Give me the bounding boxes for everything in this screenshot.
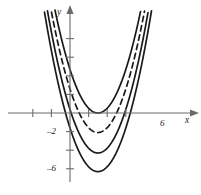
curve-parabola-1: [55, 10, 141, 113]
axis-group: [8, 5, 199, 182]
y-axis-arrowhead: [66, 5, 73, 14]
y-tick-label-minus6: –6: [47, 164, 56, 173]
y-axis-label: y: [57, 8, 61, 18]
x-axis-label: x: [185, 116, 189, 126]
plot-canvas: [0, 0, 201, 195]
x-axis-arrowhead: [190, 109, 199, 116]
curve-group: [45, 10, 152, 171]
x-tick-label-6: 6: [160, 119, 165, 128]
parabola-family-figure: y x 6 –2 –6: [0, 0, 201, 195]
y-tick-label-minus2: –2: [47, 127, 56, 136]
